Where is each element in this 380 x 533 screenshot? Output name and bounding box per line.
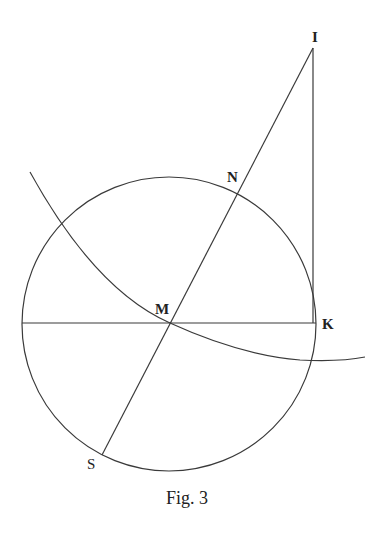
label-i: I	[312, 29, 318, 45]
label-k: K	[322, 316, 334, 332]
figure-caption: Fig. 3	[166, 488, 208, 508]
label-n: N	[227, 169, 238, 185]
label-m: M	[155, 301, 169, 317]
label-s: S	[87, 456, 95, 472]
arc-through-m	[30, 172, 365, 361]
line-smni	[102, 48, 313, 455]
geometry-figure: I N M K S Fig. 3	[0, 0, 380, 533]
circle	[22, 177, 316, 471]
